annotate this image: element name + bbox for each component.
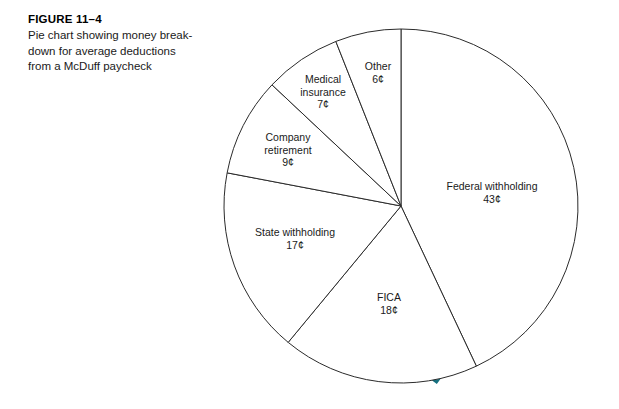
- pie-chart-svg: [0, 0, 619, 409]
- pie-slices: [224, 29, 578, 383]
- pie-chart: Federal withholding43¢FICA18¢State withh…: [0, 0, 619, 409]
